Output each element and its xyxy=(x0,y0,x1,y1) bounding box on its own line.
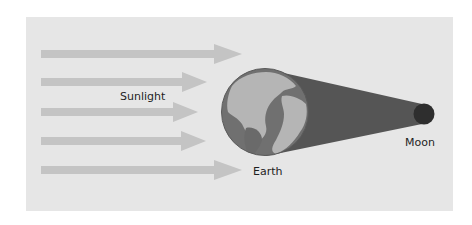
sunlight-arrow xyxy=(41,131,206,151)
moon-label: Moon xyxy=(405,137,435,148)
earth-label: Earth xyxy=(253,166,283,177)
eclipse-diagram xyxy=(0,0,472,225)
sunlight-arrow xyxy=(41,72,207,92)
moon-icon xyxy=(414,104,435,125)
sunlight-arrow xyxy=(41,44,242,64)
sunlight-arrows xyxy=(41,44,242,180)
sunlight-arrow xyxy=(41,160,242,180)
sunlight-arrow xyxy=(41,102,198,122)
sunlight-label: Sunlight xyxy=(120,91,165,102)
